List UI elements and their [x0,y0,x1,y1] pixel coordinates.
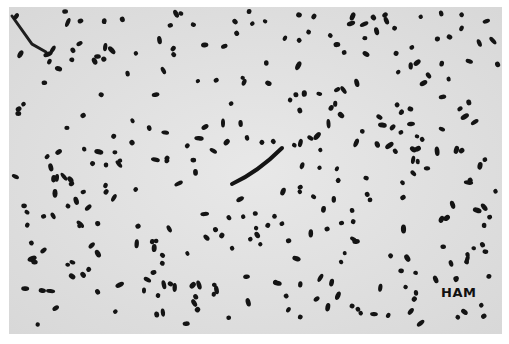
image-label: HAM [441,285,476,300]
bacteria-cells [0,0,509,344]
micrograph-frame: HAM [0,0,509,344]
